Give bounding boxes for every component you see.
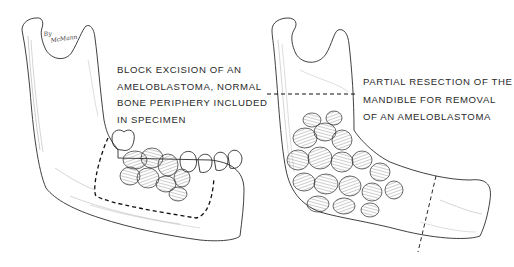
right-mandible-drawing (267, 18, 490, 252)
left-caption-line: IN SPECIMEN (117, 112, 267, 129)
left-mandible-drawing (22, 18, 244, 241)
right-caption-line: OF AN AMELOBLASTOMA (363, 108, 512, 126)
molar-tooth (112, 130, 134, 151)
right-caption-line: PARTIAL RESECTION OF THE (363, 73, 512, 91)
left-caption: BLOCK EXCISION OF AN AMELOBLASTOMA, NORM… (117, 62, 267, 128)
left-caption-line: AMELOBLASTOMA, NORMAL (117, 79, 267, 96)
right-caption-line: MANDIBLE FOR REMOVAL (363, 91, 512, 109)
illustration-canvas (0, 0, 514, 267)
ameloblastoma-mass-right (287, 111, 403, 217)
right-caption: PARTIAL RESECTION OF THE MANDIBLE FOR RE… (363, 73, 512, 126)
left-caption-line: BONE PERIPHERY INCLUDED (117, 95, 267, 112)
ameloblastoma-mass-left (120, 148, 190, 201)
resection-vertical-dashed-line (418, 176, 436, 252)
left-caption-line: BLOCK EXCISION OF AN (117, 62, 267, 79)
